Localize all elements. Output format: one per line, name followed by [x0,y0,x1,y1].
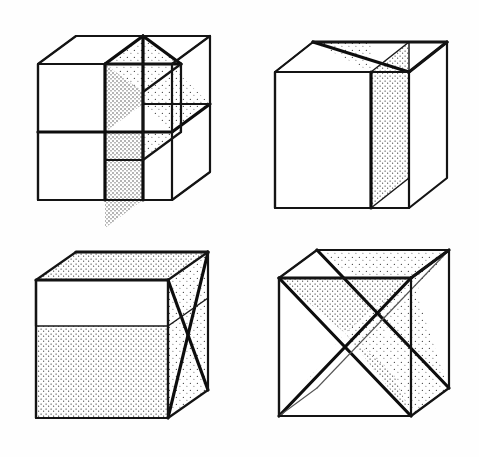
figure-sheet [0,0,479,457]
oblique-plane-lower-band [36,326,168,418]
figure-bottom-left [0,228,240,457]
cube-crossed-planes-drawing [239,228,479,457]
figure-top-right [239,0,479,229]
oblique-plane-gap [36,280,168,326]
interior-oblique-plane [36,252,208,418]
cube-diagonal-plane-drawing [239,0,479,229]
cube-octants-drawing [0,0,240,229]
cube-oblique-plane-drawing [0,228,240,457]
cube-faces [275,42,447,208]
figure-bottom-right [239,228,479,457]
figure-top-left [0,0,240,229]
